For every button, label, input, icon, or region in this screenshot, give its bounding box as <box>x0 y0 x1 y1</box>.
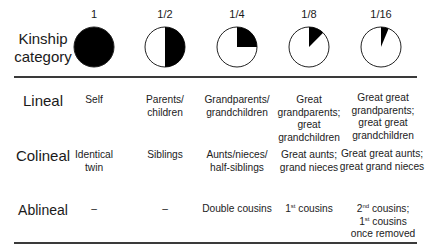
cell-text: 1st cousins <box>271 203 347 216</box>
cell-text: great great <box>340 117 426 130</box>
cell-text: – <box>127 203 203 216</box>
cell-text-rest: cousins <box>369 216 406 227</box>
cell-text: – <box>56 203 132 216</box>
cell-text: once removed <box>340 228 426 241</box>
cell-text: 1st cousins <box>340 216 426 229</box>
cell-ablineal-1-8: 1st cousins <box>271 203 347 216</box>
cell-text: 2nd cousins; <box>340 203 426 216</box>
fraction-1-16: 1/16 <box>361 8 401 20</box>
ordinal-suffix: st <box>291 203 296 209</box>
cell-lineal-1-2: Parents/ children <box>127 94 203 119</box>
fraction-1-2: 1/2 <box>145 8 185 20</box>
pie-eighth-icon <box>288 26 330 68</box>
cell-ablineal-1: – <box>56 203 132 216</box>
fraction-1-4: 1/4 <box>217 8 257 20</box>
cell-text: Double cousins <box>199 203 275 216</box>
pie-sixteenth-icon <box>360 26 402 68</box>
cell-text: grandchildren <box>340 130 426 143</box>
cell-text: Parents/ <box>127 94 203 107</box>
cell-text: half-siblings <box>199 162 275 175</box>
cell-text-rest: cousins <box>295 203 332 214</box>
cell-lineal-1-16: Great great grandparents; great great gr… <box>340 92 426 142</box>
cell-text: Great great aunts; <box>336 148 428 161</box>
cell-colineal-1-2: Siblings <box>127 149 203 162</box>
cell-text: grandparents; <box>271 107 347 120</box>
cell-text: Aunts/nieces/ <box>199 149 275 162</box>
cell-text: twin <box>56 162 132 175</box>
cell-ablineal-1-16: 2nd cousins; 1st cousins once removed <box>340 203 426 241</box>
cell-ablineal-1-4: Double cousins <box>199 203 275 216</box>
cell-lineal-1-8: Great grandparents; great grandchildren <box>271 94 347 144</box>
cell-text-rest: cousins; <box>369 203 409 214</box>
fraction-1: 1 <box>74 8 114 20</box>
pie-half-icon <box>144 26 186 68</box>
cell-text: children <box>127 107 203 120</box>
ordinal-number: 1 <box>285 203 291 214</box>
cell-lineal-1: Self <box>56 94 132 107</box>
ordinal-number: 1 <box>359 216 365 227</box>
ordinal-suffix: st <box>365 216 370 222</box>
cell-text: grandchildren <box>199 107 275 120</box>
cell-ablineal-1-2: – <box>127 203 203 216</box>
pie-full-icon <box>73 26 115 68</box>
pie-quarter-icon <box>216 26 258 68</box>
cell-text: Great <box>271 94 347 107</box>
cell-colineal-1-4: Aunts/nieces/ half-siblings <box>199 149 275 174</box>
cell-colineal-1-16: Great great aunts; great grand nieces <box>336 148 428 173</box>
top-divider <box>14 76 417 78</box>
cell-text: Siblings <box>127 149 203 162</box>
cell-lineal-1-4: Grandparents/ grandchildren <box>199 94 275 119</box>
ordinal-suffix: nd <box>362 203 369 209</box>
fraction-1-8: 1/8 <box>289 8 329 20</box>
cell-text: great <box>271 119 347 132</box>
cell-text: great grand nieces <box>336 161 428 174</box>
cell-text: Identical <box>56 149 132 162</box>
cell-text: Self <box>56 94 132 107</box>
cell-text: grandchildren <box>271 132 347 145</box>
cell-text: grandparents; <box>340 105 426 118</box>
bottom-divider <box>14 242 417 244</box>
cell-colineal-1: Identical twin <box>56 149 132 174</box>
cell-text: Grandparents/ <box>199 94 275 107</box>
cell-text: Great great <box>340 92 426 105</box>
